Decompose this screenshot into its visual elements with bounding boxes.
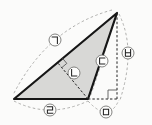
label-nieun-circle (68, 67, 80, 79)
label-mieum-circle (100, 106, 112, 118)
diagram-svg: ㄱㄴㄷㄹㅁㅂ (0, 0, 152, 125)
label-giyeok-circle (49, 34, 61, 46)
figure: ㄱㄴㄷㄹㅁㅂ (0, 0, 152, 125)
label-digeut-circle (96, 55, 108, 67)
